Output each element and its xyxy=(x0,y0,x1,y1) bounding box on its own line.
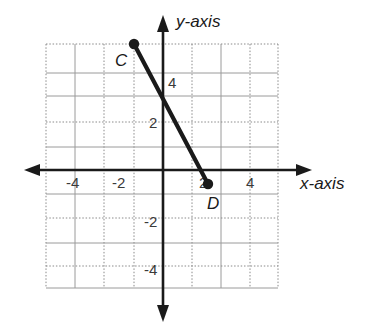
coordinate-plane-svg: y-axis x-axis -4 -2 2 4 4 2 -2 -4 C D xyxy=(0,0,367,333)
y-tick-label-pos2: 2 xyxy=(149,114,157,131)
x-axis-left-arrow-icon xyxy=(24,164,40,176)
y-tick-label-pos4: 4 xyxy=(168,74,176,91)
point-d-label: D xyxy=(207,194,219,213)
x-tick-label-pos4: 4 xyxy=(246,174,254,191)
x-tick-label-neg2: -2 xyxy=(112,174,125,191)
y-axis-top-arrow-icon xyxy=(157,15,169,32)
point-c-marker xyxy=(129,39,139,49)
y-axis-bottom-arrow-icon xyxy=(157,305,169,322)
x-tick-label-neg4: -4 xyxy=(66,174,79,191)
segment-cd xyxy=(134,44,208,184)
x-axis-label: x-axis xyxy=(299,174,345,193)
coordinate-plane-figure: y-axis x-axis -4 -2 2 4 4 2 -2 -4 C D xyxy=(0,0,367,333)
y-tick-label-neg2: -2 xyxy=(144,213,157,230)
y-tick-label-neg4: -4 xyxy=(144,261,157,278)
point-c-label: C xyxy=(115,51,128,70)
axes-group xyxy=(24,15,312,322)
y-axis-label: y-axis xyxy=(175,12,221,31)
point-d-marker xyxy=(203,179,213,189)
